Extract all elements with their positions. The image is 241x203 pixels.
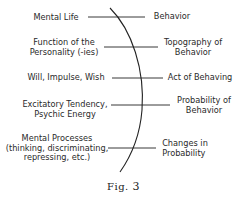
figure-caption: Fig. 3 (107, 180, 140, 193)
left-term-text: Personality (-ies) (30, 48, 99, 58)
left-term-4: Excitatory Tendency, Psychic Energy (22, 100, 107, 119)
left-term-text: Mental Life (33, 13, 78, 23)
left-term-text: repressing, etc.) (6, 153, 108, 163)
right-term-text: Act of Behaving (168, 73, 233, 83)
right-term-5: Changes in Probability (162, 139, 208, 158)
left-term-text: Will, Impulse, Wish (27, 73, 104, 83)
left-term-text: Psychic Energy (22, 110, 107, 120)
right-term-text: Behavior (164, 48, 222, 58)
left-term-3: Will, Impulse, Wish (27, 73, 104, 83)
right-term-text: Behavior (177, 106, 231, 116)
right-term-1: Behavior (154, 12, 190, 22)
right-term-text: Probability (162, 149, 208, 159)
right-term-text: Behavior (154, 12, 190, 22)
caption-label: Fig. (107, 181, 129, 192)
right-term-4: Probability of Behavior (177, 96, 231, 115)
left-term-5: Mental Processes (thinking, discriminati… (6, 134, 108, 163)
right-term-2: Topography of Behavior (164, 38, 222, 57)
dividing-curve (110, 8, 142, 172)
left-term-1: Mental Life (33, 13, 78, 23)
right-term-3: Act of Behaving (168, 73, 233, 83)
left-term-2: Function of the Personality (-ies) (30, 38, 99, 57)
caption-number: 3 (132, 180, 140, 193)
